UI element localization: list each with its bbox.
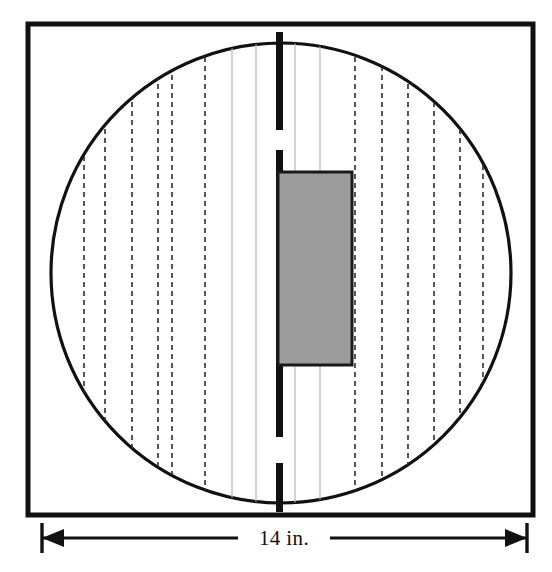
- diagram-canvas: 14 in.: [0, 0, 552, 572]
- center-bar-segment-0: [276, 32, 283, 130]
- dimension-label: 14 in.: [259, 526, 309, 550]
- technical-diagram: 14 in.: [0, 0, 552, 572]
- center-bar-segment-2: [276, 463, 283, 512]
- shaded-rectangle: [278, 172, 352, 365]
